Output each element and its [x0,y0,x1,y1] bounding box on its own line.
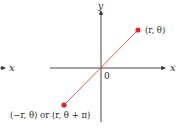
polar-diagram: x x y 0 (r, θ) (−r, θ) or (r, θ + π) [0,0,184,129]
point-neg-r-theta-label: (−r, θ) or (r, θ + π) [10,110,90,120]
origin-label: 0 [104,71,110,81]
point-neg-r-theta [61,102,66,107]
point-r-theta-label: (r, θ) [145,25,165,35]
point-r-theta [135,27,140,32]
x-axis-label: x [170,62,176,73]
left-x-label: x [9,62,15,73]
left-axis-fragment: x [0,62,15,73]
y-axis-label: y [97,1,104,11]
